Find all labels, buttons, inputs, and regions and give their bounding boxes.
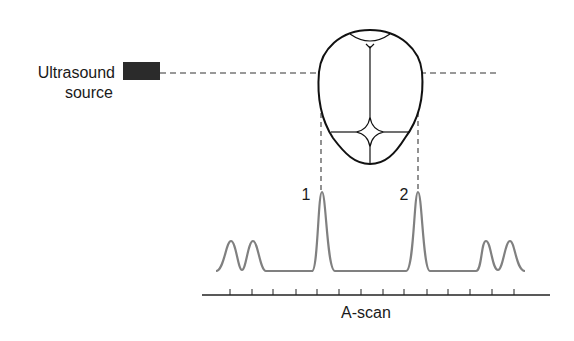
- a-scan-trace: [216, 192, 525, 271]
- axis-label: A-scan: [341, 304, 391, 321]
- peak-label-1: 1: [302, 186, 311, 203]
- source-label-line2: source: [65, 84, 113, 101]
- peak-label-2: 2: [400, 186, 409, 203]
- source-label-line1: Ultrasound: [38, 64, 115, 81]
- a-scan-diagram: Ultrasound source 1 2: [0, 0, 574, 341]
- ultrasound-transducer: [123, 62, 160, 80]
- axis-ticks: [230, 289, 514, 295]
